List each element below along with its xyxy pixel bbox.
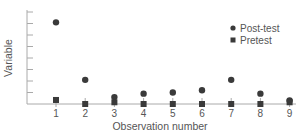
pretest-point	[257, 101, 263, 107]
post-test-point	[199, 87, 205, 93]
x-tick-label: 1	[53, 108, 59, 119]
x-axis-label: Observation number	[112, 120, 208, 132]
circle-marker-icon	[230, 25, 235, 30]
legend-label: Post-test	[240, 23, 280, 34]
x-axis: 123456789	[27, 98, 296, 119]
scatter-chart: 123456789 Variable Observation number Po…	[0, 0, 302, 138]
post-test-point	[170, 89, 176, 95]
pretest-point	[141, 101, 147, 107]
y-axis-label: Variable	[2, 39, 14, 77]
pretest-point	[82, 101, 88, 107]
legend-item-post-test: Post-test	[230, 23, 279, 34]
legend-item-pretest: Pretest	[231, 35, 272, 46]
x-tick-label: 5	[170, 108, 176, 119]
x-tick-label: 2	[82, 108, 88, 119]
x-tick-label: 6	[199, 108, 205, 119]
pretest-point	[53, 97, 59, 103]
post-test-point	[228, 77, 234, 83]
x-tick-label: 7	[228, 108, 234, 119]
square-marker-icon	[231, 38, 236, 43]
pretest-point	[287, 99, 293, 105]
post-test-point	[140, 90, 146, 96]
pretest-point	[170, 101, 176, 107]
x-tick-label: 3	[112, 108, 118, 119]
legend: Post-testPretest	[230, 23, 279, 46]
x-tick-label: 4	[141, 108, 147, 119]
post-test-point	[53, 19, 59, 25]
y-axis	[27, 10, 33, 104]
pretest-point	[199, 101, 205, 107]
legend-label: Pretest	[240, 35, 272, 46]
pretest-point	[228, 101, 234, 107]
post-test-point	[82, 77, 88, 83]
pretest-point	[111, 99, 117, 105]
x-tick-label: 9	[287, 108, 293, 119]
post-test-point	[257, 90, 263, 96]
x-tick-label: 8	[258, 108, 264, 119]
